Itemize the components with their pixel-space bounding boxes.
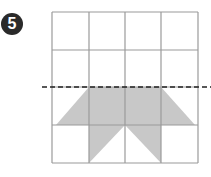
- shaded-region: [89, 125, 125, 163]
- shaded-region: [125, 125, 161, 163]
- grid-diagram: [0, 0, 211, 177]
